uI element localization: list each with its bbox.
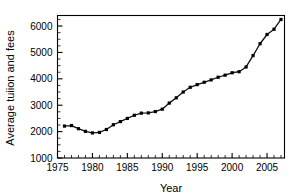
data-point — [84, 130, 87, 133]
data-point — [258, 42, 261, 45]
data-point — [112, 123, 115, 126]
data-point — [77, 127, 80, 130]
data-point — [63, 124, 66, 127]
x-axis-tick-labels: 1975198019851990199520002005 — [46, 162, 278, 173]
data-point — [91, 131, 94, 134]
x-tick-label: 1995 — [186, 162, 209, 173]
y-tick-label: 2000 — [30, 126, 53, 137]
y-tick-label: 4000 — [30, 73, 53, 84]
data-point — [175, 96, 178, 99]
data-point — [140, 112, 143, 115]
data-point — [231, 71, 234, 74]
data-point — [119, 120, 122, 123]
data-point — [98, 131, 101, 134]
data-point — [224, 74, 227, 77]
data-point — [210, 78, 213, 81]
x-tick-label: 2005 — [256, 162, 279, 173]
data-series-line — [64, 19, 281, 132]
data-point — [279, 18, 282, 21]
data-point — [265, 33, 268, 36]
data-point — [168, 102, 171, 105]
data-point — [133, 114, 136, 117]
data-point — [126, 117, 129, 120]
y-axis-ticks — [58, 19, 63, 158]
x-tick-label: 1975 — [46, 162, 69, 173]
x-tick-label: 2000 — [221, 162, 244, 173]
x-axis-title: Year — [160, 182, 183, 194]
data-point — [147, 111, 150, 114]
y-axis-title: Average tuiion and fees — [4, 30, 16, 146]
x-tick-label: 1985 — [116, 162, 139, 173]
y-tick-label: 5000 — [30, 47, 53, 58]
y-axis-tick-labels: 100020003000400050006000 — [30, 21, 53, 164]
data-point — [105, 128, 108, 131]
data-point — [238, 70, 241, 73]
data-point — [154, 110, 157, 113]
tuition-line-chart: Average tuiion and fees Year 10002000300… — [0, 0, 300, 196]
x-tick-label: 1990 — [151, 162, 174, 173]
data-point — [182, 90, 185, 93]
x-tick-label: 1980 — [81, 162, 104, 173]
data-point — [70, 124, 73, 127]
data-point — [272, 28, 275, 31]
data-point — [161, 108, 164, 111]
x-axis-ticks — [58, 153, 282, 158]
y-tick-label: 3000 — [30, 100, 53, 111]
data-point — [217, 76, 220, 79]
y-tick-label: 6000 — [30, 21, 53, 32]
data-point — [251, 54, 254, 57]
data-point — [244, 65, 247, 68]
data-point — [189, 86, 192, 89]
data-point — [196, 83, 199, 86]
chart-figure: Average tuiion and fees Year 10002000300… — [0, 0, 300, 196]
data-point — [203, 81, 206, 84]
plot-frame — [58, 16, 285, 159]
data-series-markers — [63, 18, 283, 135]
